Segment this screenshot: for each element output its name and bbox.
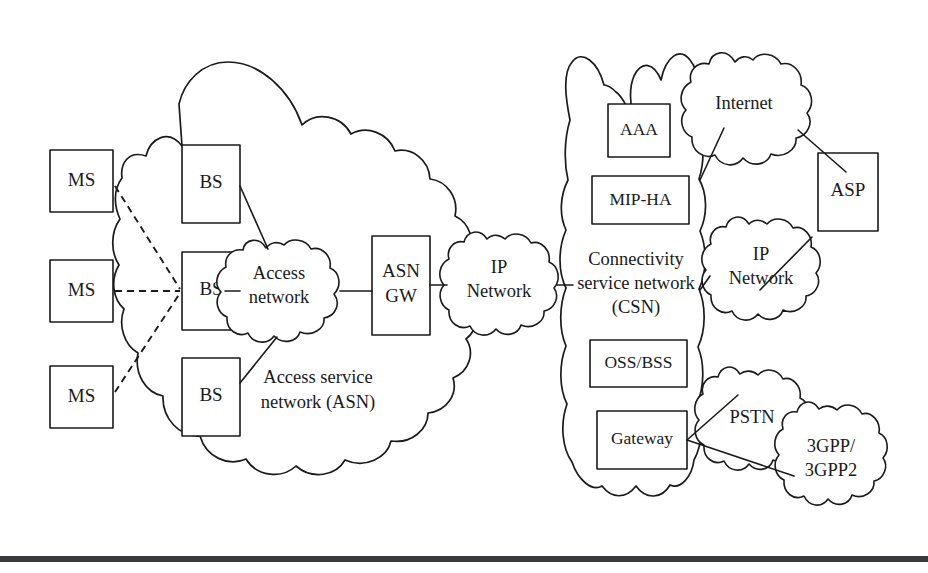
diagram-canvas: MS MS MS BS BS BS Access network ASN GW … xyxy=(0,0,928,573)
asp-box-label: ASP xyxy=(831,179,866,200)
asn-region-label-line1: Access service xyxy=(263,367,372,387)
access-network-label-line2: network xyxy=(249,287,310,307)
access-network-label-line1: Access xyxy=(253,263,305,283)
bottom-divider-rule xyxy=(0,556,928,562)
network-architecture-diagram: MS MS MS BS BS BS Access network ASN GW … xyxy=(0,0,928,573)
ms-box-1-label: MS xyxy=(68,169,95,190)
csn-region-label-line1: Connectivity xyxy=(588,249,684,269)
ms-box-3-label: MS xyxy=(68,385,95,406)
mip-ha-box-label: MIP-HA xyxy=(609,189,672,209)
csn-region-label-line2: service network xyxy=(577,273,695,293)
legacy-mobile-label-line1: 3GPP/ xyxy=(807,436,856,456)
ms-box-2-label: MS xyxy=(68,279,95,300)
pstn-cloud-label: PSTN xyxy=(729,407,774,427)
core-ip-network-label-line2: Network xyxy=(467,281,532,301)
core-ip-network-label-line1: IP xyxy=(491,257,507,277)
oss-bss-box-label: OSS/BSS xyxy=(604,352,672,372)
internet-cloud-label: Internet xyxy=(715,93,773,113)
gateway-box-label: Gateway xyxy=(611,428,673,448)
asn-gateway-label-line2: GW xyxy=(385,285,417,306)
asn-region-label-line2: network (ASN) xyxy=(261,392,376,413)
csn-region-label-line3: (CSN) xyxy=(612,297,660,318)
aaa-box-label: AAA xyxy=(620,119,658,139)
asn-gateway-label-line1: ASN xyxy=(382,260,420,281)
external-ip-network-label-line2: Network xyxy=(729,268,794,288)
bs-box-3-label: BS xyxy=(199,384,222,405)
legacy-mobile-label-line2: 3GPP2 xyxy=(805,460,857,480)
external-ip-network-label-line1: IP xyxy=(753,244,769,264)
bs-box-1-label: BS xyxy=(199,171,222,192)
